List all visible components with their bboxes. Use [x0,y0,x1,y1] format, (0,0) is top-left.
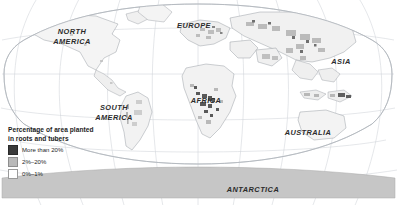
legend-item-low: 0%–1% [8,169,120,179]
legend-item-high: More than 20% [8,145,120,155]
legend-label-mid: 2%–20% [22,159,46,165]
map-label-africa: AFRICA [186,96,226,106]
legend-swatch-mid [8,157,18,167]
map-label-north-america: NORTH AMERICA [44,27,100,47]
legend-title: Percentage of area planted in roots and … [8,126,120,143]
map-label-australia: AUSTRALIA [280,128,336,138]
world-map-figure: NORTH AMERICA SOUTH AMERICA EUROPE AFRIC… [0,0,397,205]
map-label-south-america: SOUTH AMERICA [86,103,142,123]
legend-item-mid: 2%–20% [8,157,120,167]
legend-label-low: 0%–1% [22,171,43,177]
map-label-europe: EUROPE [172,21,216,31]
map-legend: Percentage of area planted in roots and … [8,126,120,179]
legend-swatch-low [8,169,18,179]
legend-label-high: More than 20% [22,147,63,153]
map-label-antarctica: ANTARCTICA [222,185,284,195]
legend-swatch-high [8,145,18,155]
map-label-asia: ASIA [326,57,356,67]
